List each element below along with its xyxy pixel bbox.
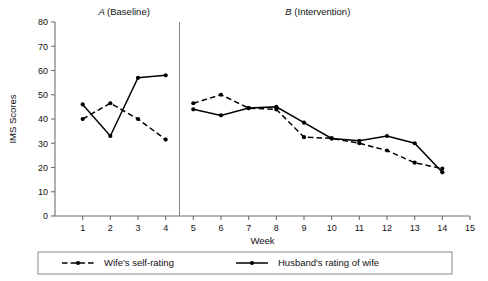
- phase-letter: B: [285, 6, 294, 17]
- x-axis-title: Week: [250, 235, 274, 246]
- legend-label-0: Wife's self-rating: [104, 257, 174, 268]
- phase-label-a: A (Baseline): [97, 6, 149, 17]
- series-1-phase-a-point: [164, 73, 168, 77]
- x-axis-tick-label: 10: [327, 223, 337, 233]
- x-axis-tick-label: 12: [382, 223, 392, 233]
- series-1-phase-b-point: [247, 106, 251, 110]
- chart-figure: 01020304050607080IMS Scores1234567891011…: [0, 0, 488, 281]
- y-axis-tick-label: 80: [38, 17, 48, 27]
- x-axis-tick-label: 11: [355, 223, 364, 233]
- y-axis-title: IMS Scores: [7, 94, 18, 143]
- series-1-phase-a-point: [81, 102, 85, 106]
- series-1-phase-b-point: [302, 121, 306, 125]
- series-0-phase-b-line: [193, 95, 442, 169]
- series-0-phase-b-point: [413, 161, 417, 165]
- y-axis-tick-label: 70: [38, 42, 48, 52]
- x-axis-tick-label: 13: [410, 223, 420, 233]
- series-0-phase-a-point: [108, 101, 112, 105]
- x-axis-tick-label: 14: [437, 223, 447, 233]
- x-axis-tick-label: 2: [108, 223, 113, 233]
- series-0-phase-a-point: [81, 117, 85, 121]
- series-1-phase-b-point: [219, 113, 223, 117]
- phase-name: (Intervention): [294, 6, 350, 17]
- series-0-phase-b-point: [302, 135, 306, 139]
- x-axis-tick-label: 4: [163, 223, 168, 233]
- legend-label-1: Husband's rating of wife: [278, 257, 379, 268]
- series-1-phase-b-point: [440, 170, 444, 174]
- series-1-phase-b-point: [357, 139, 361, 143]
- x-axis-tick-label: 9: [301, 223, 306, 233]
- series-1-phase-a-line: [83, 75, 166, 136]
- series-1-phase-a-point: [136, 76, 140, 80]
- series-0-phase-b-point: [219, 93, 223, 97]
- y-axis-tick-label: 30: [38, 139, 48, 149]
- y-axis-tick-label: 0: [43, 211, 48, 221]
- phase-name: (Baseline): [107, 6, 150, 17]
- phase-letter: A: [97, 6, 107, 17]
- y-axis-tick-label: 20: [38, 163, 48, 173]
- legend-swatch-marker-0: [76, 261, 80, 265]
- series-0-phase-b-point: [191, 101, 195, 105]
- x-axis-tick-label: 8: [274, 223, 279, 233]
- series-0-phase-a-point: [136, 117, 140, 121]
- series-0-phase-a-line: [83, 103, 166, 139]
- y-axis-tick-label: 50: [38, 90, 48, 100]
- x-axis-tick-label: 1: [80, 223, 85, 233]
- series-1-phase-b-point: [385, 134, 389, 138]
- y-axis-tick-label: 40: [38, 114, 48, 124]
- y-axis-tick-label: 60: [38, 66, 48, 76]
- x-axis-tick-label: 7: [246, 223, 251, 233]
- phase-label-b: B (Intervention): [285, 6, 350, 17]
- series-1-phase-b-point: [191, 107, 195, 111]
- series-1-phase-b-point: [330, 136, 334, 140]
- series-1-phase-b-line: [193, 107, 442, 172]
- x-axis-tick-label: 15: [465, 223, 475, 233]
- series-1-phase-b-point: [413, 141, 417, 145]
- series-1-phase-a-point: [108, 134, 112, 138]
- legend-swatch-marker-1: [250, 261, 254, 265]
- series-0-phase-b-point: [385, 148, 389, 152]
- series-1-phase-b-point: [274, 105, 278, 109]
- y-axis-tick-label: 10: [38, 187, 48, 197]
- series-0-phase-a-point: [164, 138, 168, 142]
- x-axis-tick-label: 5: [191, 223, 196, 233]
- x-axis-tick-label: 3: [135, 223, 140, 233]
- line-chart: 01020304050607080IMS Scores1234567891011…: [0, 0, 488, 281]
- x-axis-tick-label: 6: [218, 223, 223, 233]
